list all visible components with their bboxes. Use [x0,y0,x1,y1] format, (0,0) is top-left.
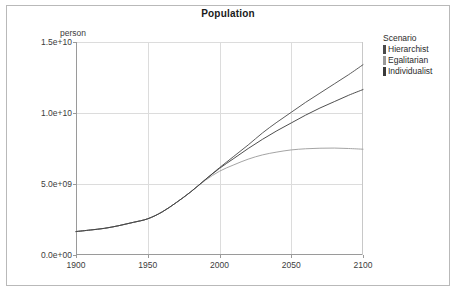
legend: Scenario HierarchistEgalitarianIndividua… [383,33,453,77]
y-tick-label: 1.5e+10 [41,37,72,47]
series-line [76,90,363,232]
y-tick-label: 0.0e+00 [41,250,72,260]
legend-item[interactable]: Hierarchist [383,44,453,54]
x-tick-mark [148,255,149,258]
legend-item-label: Individualist [388,66,432,76]
population-chart: Population person 0.0e+005.0e+091.0e+101… [0,0,456,292]
legend-swatch-icon [383,56,386,65]
x-tick-label: 2100 [354,260,373,270]
x-tick-label: 2050 [282,260,301,270]
plot-panel: 0.0e+005.0e+091.0e+101.5e+10190019502000… [76,42,363,255]
x-tick-mark [363,255,364,258]
x-tick-mark [76,255,77,258]
legend-item-label: Hierarchist [388,44,429,54]
legend-item[interactable]: Individualist [383,66,453,76]
series-lines [76,42,363,255]
legend-swatch-icon [383,45,386,54]
y-tick-label: 1.0e+10 [41,108,72,118]
x-tick-label: 2000 [210,260,229,270]
legend-title: Scenario [383,33,453,43]
chart-title: Population [0,8,456,19]
legend-item[interactable]: Egalitarian [383,55,453,65]
x-tick-label: 1900 [67,260,86,270]
y-tick-label: 5.0e+09 [41,179,72,189]
screenshot-frame: Population person 0.0e+005.0e+091.0e+101… [0,0,456,292]
legend-item-label: Egalitarian [388,55,428,65]
x-tick-label: 1950 [138,260,157,270]
series-line [76,148,363,232]
x-tick-mark [291,255,292,258]
x-tick-mark [220,255,221,258]
legend-swatch-icon [383,67,386,76]
legend-items: HierarchistEgalitarianIndividualist [383,44,453,76]
